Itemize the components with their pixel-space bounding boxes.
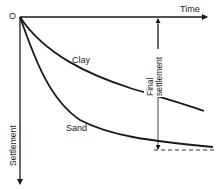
final-settlement-label: Final settlement	[144, 49, 164, 97]
settlement-axis-label: Settlement	[8, 125, 18, 166]
sand-label: Sand	[66, 123, 87, 133]
sand-curve	[20, 17, 213, 147]
settlement-diagram: O Time Settlement Clay Sand Final settle…	[0, 0, 220, 189]
time-axis-label: Time	[180, 4, 200, 14]
origin-label: O	[9, 11, 16, 21]
clay-label: Clay	[72, 55, 91, 65]
final-settlement-label-line2: settlement	[154, 56, 164, 96]
clay-curve	[20, 17, 204, 111]
